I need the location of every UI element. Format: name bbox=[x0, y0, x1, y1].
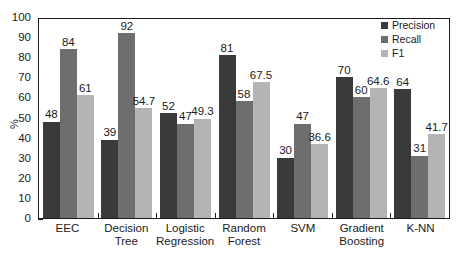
bar-group: 399254.7 bbox=[98, 19, 157, 218]
bar-group: 304736.6 bbox=[273, 19, 332, 218]
x-tick-mark bbox=[332, 213, 333, 218]
bar-value-label: 64 bbox=[396, 77, 409, 89]
bar-value-label: 48 bbox=[45, 109, 58, 121]
y-tick-label: 90 bbox=[0, 32, 31, 44]
bar-recall: 58 bbox=[236, 101, 253, 218]
bar-cluster: 815867.5 bbox=[219, 19, 270, 218]
legend-swatch-icon bbox=[381, 22, 388, 29]
x-axis-label-line: EEC bbox=[38, 222, 97, 235]
bar-value-label: 36.6 bbox=[308, 132, 330, 144]
bar-value-label: 47 bbox=[179, 111, 192, 123]
y-tick-label: 80 bbox=[0, 52, 31, 64]
bar-precision: 64 bbox=[394, 89, 411, 218]
x-axis-label-line: Tree bbox=[97, 235, 156, 248]
bar-f1: 36.6 bbox=[311, 144, 328, 218]
bar-value-label: 81 bbox=[221, 43, 234, 55]
bar-cluster: 304736.6 bbox=[277, 19, 328, 218]
bar-recall: 92 bbox=[118, 33, 135, 218]
x-axis-label-line: Boosting bbox=[332, 235, 391, 248]
bar-value-label: 70 bbox=[338, 65, 351, 77]
bar-f1: 54.7 bbox=[135, 108, 152, 218]
bar-cluster: 524749.3 bbox=[160, 19, 211, 218]
x-axis-label-line: Forest bbox=[215, 235, 274, 248]
x-axis-label-line: K-NN bbox=[391, 222, 450, 235]
bar-value-label: 60 bbox=[355, 85, 368, 97]
x-axis-label: SVM bbox=[273, 222, 332, 248]
y-tick-label: 30 bbox=[0, 153, 31, 165]
bar-group: 524749.3 bbox=[156, 19, 215, 218]
x-axis-label-line: Random bbox=[215, 222, 274, 235]
bar-value-label: 39 bbox=[103, 127, 116, 139]
bar-f1: 64.6 bbox=[370, 88, 387, 218]
bar-value-label: 49.3 bbox=[191, 106, 213, 118]
bar-cluster: 706064.6 bbox=[336, 19, 387, 218]
y-tick-label: 60 bbox=[0, 92, 31, 104]
legend-swatch-icon bbox=[381, 36, 388, 43]
legend-label: Recall bbox=[392, 34, 421, 45]
x-axis-labels: EECDecisionTreeLogisticRegressionRandomF… bbox=[38, 222, 450, 248]
x-axis-label: RandomForest bbox=[215, 222, 274, 248]
x-tick-mark bbox=[273, 213, 274, 218]
x-tick-mark bbox=[156, 213, 157, 218]
legend-item-recall[interactable]: Recall bbox=[381, 34, 435, 45]
y-tick-label: 40 bbox=[0, 133, 31, 145]
bar-cluster: 399254.7 bbox=[101, 19, 152, 218]
bar-precision: 39 bbox=[101, 140, 118, 218]
y-tick-label: 50 bbox=[0, 113, 31, 125]
bar-value-label: 58 bbox=[238, 89, 251, 101]
bar-value-label: 47 bbox=[296, 111, 309, 123]
bar-recall: 47 bbox=[177, 124, 194, 218]
bar-chart: % 1009080706050403020100 488461399254.75… bbox=[0, 0, 460, 271]
bar-f1: 49.3 bbox=[194, 119, 211, 218]
bar-value-label: 54.7 bbox=[133, 96, 155, 108]
bar-precision: 52 bbox=[160, 113, 177, 218]
x-axis-label-line: Regression bbox=[156, 235, 215, 248]
y-tick-label: 20 bbox=[0, 173, 31, 185]
legend-item-precision[interactable]: Precision bbox=[381, 20, 435, 31]
bar-value-label: 30 bbox=[279, 145, 292, 157]
legend-label: Precision bbox=[392, 20, 435, 31]
legend-item-f1[interactable]: F1 bbox=[381, 48, 435, 59]
y-tick-label: 10 bbox=[0, 193, 31, 205]
bar-value-label: 64.6 bbox=[367, 76, 389, 88]
chart-legend: PrecisionRecallF1 bbox=[381, 20, 435, 59]
x-axis-label: DecisionTree bbox=[97, 222, 156, 248]
bar-value-label: 67.5 bbox=[250, 70, 272, 82]
bar-f1: 41.7 bbox=[428, 134, 445, 218]
bar-group: 488461 bbox=[39, 19, 98, 218]
y-tick-label: 0 bbox=[0, 213, 31, 225]
bar-value-label: 61 bbox=[79, 83, 92, 95]
bar-precision: 30 bbox=[277, 158, 294, 218]
legend-label: F1 bbox=[392, 48, 404, 59]
x-tick-mark bbox=[215, 213, 216, 218]
x-axis-label: GradientBoosting bbox=[332, 222, 391, 248]
bar-cluster: 488461 bbox=[43, 19, 94, 218]
x-tick-mark bbox=[390, 213, 391, 218]
bar-recall: 31 bbox=[411, 156, 428, 218]
bar-recall: 84 bbox=[60, 49, 77, 218]
bar-value-label: 84 bbox=[62, 37, 75, 49]
bar-value-label: 31 bbox=[413, 143, 426, 155]
x-tick-mark bbox=[98, 213, 99, 218]
bar-precision: 48 bbox=[43, 122, 60, 218]
x-axis-label-line: Decision bbox=[97, 222, 156, 235]
bar-value-label: 41.7 bbox=[426, 122, 448, 134]
y-tick-mark bbox=[38, 219, 43, 220]
bar-recall: 60 bbox=[353, 97, 370, 218]
x-axis-label-line: Logistic bbox=[156, 222, 215, 235]
x-axis-label-line: SVM bbox=[273, 222, 332, 235]
bar-precision: 81 bbox=[219, 55, 236, 218]
bar-value-label: 92 bbox=[120, 21, 133, 33]
x-axis-label: EEC bbox=[38, 222, 97, 248]
y-tick-label: 70 bbox=[0, 72, 31, 84]
x-axis-label: K-NN bbox=[391, 222, 450, 248]
bar-f1: 61 bbox=[77, 95, 94, 218]
bar-group: 815867.5 bbox=[215, 19, 274, 218]
bar-f1: 67.5 bbox=[253, 82, 270, 218]
bar-precision: 70 bbox=[336, 77, 353, 218]
y-tick-label: 100 bbox=[0, 12, 31, 24]
bar-value-label: 52 bbox=[162, 101, 175, 113]
x-axis-label: LogisticRegression bbox=[156, 222, 215, 248]
x-axis-label-line: Gradient bbox=[332, 222, 391, 235]
legend-swatch-icon bbox=[381, 50, 388, 57]
